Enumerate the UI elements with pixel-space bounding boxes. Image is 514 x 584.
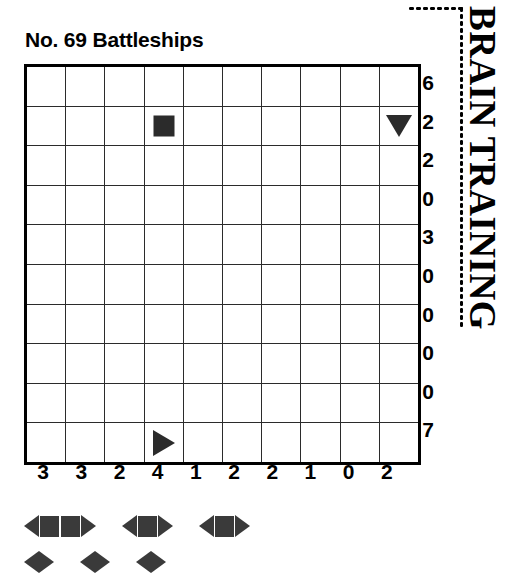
grid-cell[interactable] bbox=[66, 344, 105, 384]
grid-cell[interactable] bbox=[105, 383, 144, 423]
grid-cell[interactable] bbox=[66, 225, 105, 265]
grid-cell[interactable] bbox=[183, 383, 222, 423]
grid-cell[interactable] bbox=[262, 304, 301, 344]
grid-cell[interactable] bbox=[340, 185, 379, 225]
grid-cell[interactable] bbox=[26, 304, 66, 344]
grid-cell[interactable] bbox=[66, 383, 105, 423]
grid-cell[interactable] bbox=[105, 304, 144, 344]
grid-cell[interactable] bbox=[144, 146, 183, 186]
grid-cell[interactable] bbox=[340, 66, 379, 107]
grid-cell[interactable] bbox=[26, 264, 66, 304]
grid-cell[interactable] bbox=[340, 225, 379, 265]
grid-cell[interactable] bbox=[26, 383, 66, 423]
grid-cell[interactable] bbox=[183, 264, 222, 304]
grid-cell[interactable] bbox=[340, 146, 379, 186]
grid-cell[interactable] bbox=[301, 383, 340, 423]
column-clue-3: 2 bbox=[100, 459, 138, 485]
grid-cell[interactable] bbox=[66, 423, 105, 464]
grid-cell[interactable] bbox=[222, 146, 261, 186]
grid-cell[interactable] bbox=[262, 344, 301, 384]
grid-cell[interactable] bbox=[340, 423, 379, 464]
grid-cell[interactable] bbox=[301, 66, 340, 107]
grid-cell[interactable] bbox=[144, 66, 183, 107]
grid-cell[interactable] bbox=[144, 304, 183, 344]
grid-cell[interactable] bbox=[222, 344, 261, 384]
grid-cell[interactable] bbox=[26, 66, 66, 107]
grid-cell[interactable] bbox=[26, 185, 66, 225]
grid-cell[interactable] bbox=[301, 146, 340, 186]
grid-cell[interactable] bbox=[183, 66, 222, 107]
grid-cell[interactable] bbox=[144, 344, 183, 384]
grid-cell[interactable] bbox=[105, 146, 144, 186]
grid-cell[interactable] bbox=[26, 225, 66, 265]
grid-cell[interactable] bbox=[222, 66, 261, 107]
square-marker-icon bbox=[153, 115, 174, 136]
grid-cell[interactable] bbox=[144, 264, 183, 304]
grid-cell[interactable] bbox=[183, 423, 222, 464]
grid-cell[interactable] bbox=[340, 106, 379, 146]
ship-bow-left-icon bbox=[24, 551, 39, 573]
grid-cell[interactable] bbox=[262, 146, 301, 186]
grid-cell[interactable] bbox=[105, 66, 144, 107]
grid-cell[interactable] bbox=[340, 344, 379, 384]
grid-cell[interactable] bbox=[105, 106, 144, 146]
grid-cell[interactable] bbox=[144, 225, 183, 265]
grid-cell[interactable] bbox=[301, 225, 340, 265]
ship-middle-icon bbox=[215, 516, 234, 537]
grid-cell[interactable] bbox=[66, 106, 105, 146]
column-clue-4: 4 bbox=[139, 459, 177, 485]
grid-cell[interactable] bbox=[222, 304, 261, 344]
grid-cell[interactable] bbox=[26, 423, 66, 464]
grid-cell[interactable] bbox=[26, 106, 66, 146]
grid-cell[interactable] bbox=[301, 106, 340, 146]
grid-cell[interactable] bbox=[222, 225, 261, 265]
grid-cell[interactable] bbox=[66, 146, 105, 186]
grid-cell[interactable] bbox=[105, 264, 144, 304]
grid-cell[interactable] bbox=[66, 185, 105, 225]
grid-cell[interactable] bbox=[222, 264, 261, 304]
grid-cell[interactable] bbox=[340, 304, 379, 344]
grid-cell[interactable] bbox=[66, 304, 105, 344]
grid-cell[interactable] bbox=[262, 423, 301, 464]
grid-cell[interactable] bbox=[262, 106, 301, 146]
grid-cell[interactable] bbox=[183, 106, 222, 146]
grid-cell[interactable] bbox=[183, 344, 222, 384]
grid-cell[interactable] bbox=[340, 383, 379, 423]
grid-cell[interactable] bbox=[301, 344, 340, 384]
column-clue-7: 2 bbox=[253, 459, 291, 485]
grid-cell[interactable] bbox=[183, 304, 222, 344]
grid-cell[interactable] bbox=[301, 304, 340, 344]
grid-cell[interactable] bbox=[105, 423, 144, 464]
grid-cell[interactable] bbox=[222, 185, 261, 225]
grid-cell[interactable] bbox=[105, 185, 144, 225]
grid-cell[interactable] bbox=[301, 264, 340, 304]
grid-cell[interactable] bbox=[301, 185, 340, 225]
grid-cell[interactable] bbox=[262, 185, 301, 225]
grid-cell[interactable] bbox=[222, 106, 261, 146]
grid-cell-ship-end-right[interactable] bbox=[144, 423, 183, 464]
grid-cell[interactable] bbox=[183, 146, 222, 186]
tri-right-marker-icon bbox=[153, 430, 175, 456]
grid-cell[interactable] bbox=[262, 264, 301, 304]
grid-cell[interactable] bbox=[66, 264, 105, 304]
grid-cell[interactable] bbox=[144, 185, 183, 225]
grid-cell[interactable] bbox=[105, 344, 144, 384]
grid-cell[interactable] bbox=[144, 383, 183, 423]
grid-cell-ship-middle[interactable] bbox=[144, 106, 183, 146]
grid-table[interactable] bbox=[24, 64, 421, 465]
grid-cell[interactable] bbox=[262, 383, 301, 423]
grid-cell[interactable] bbox=[26, 146, 66, 186]
ship-bow-left-icon bbox=[136, 551, 151, 573]
grid-cell[interactable] bbox=[262, 225, 301, 265]
grid-cell[interactable] bbox=[26, 344, 66, 384]
grid-cell[interactable] bbox=[222, 383, 261, 423]
grid-cell[interactable] bbox=[105, 225, 144, 265]
grid-cell[interactable] bbox=[222, 423, 261, 464]
grid-cell[interactable] bbox=[183, 225, 222, 265]
grid-cell[interactable] bbox=[66, 66, 105, 107]
grid-cell[interactable] bbox=[301, 423, 340, 464]
battleships-grid[interactable] bbox=[24, 64, 421, 465]
grid-cell[interactable] bbox=[183, 185, 222, 225]
grid-cell[interactable] bbox=[340, 264, 379, 304]
grid-cell[interactable] bbox=[262, 66, 301, 107]
